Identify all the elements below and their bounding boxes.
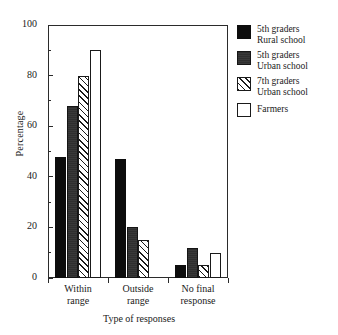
legend-label-line: 5th graders — [257, 50, 308, 61]
bar — [198, 265, 209, 278]
legend-item: Farmers — [237, 102, 338, 117]
bar — [115, 159, 126, 278]
y-tick-label: 20 — [9, 221, 37, 231]
legend-label-line: Rural school — [257, 35, 305, 46]
legend-label: 5th gradersUrban school — [257, 50, 308, 71]
x-category-label: No finalresponse — [160, 283, 236, 306]
legend-label-line: Farmers — [257, 104, 288, 115]
x-axis-title: Type of responses — [0, 313, 278, 324]
bar — [90, 50, 101, 278]
x-category-line: No final — [160, 283, 236, 295]
bar — [187, 248, 198, 278]
bar — [175, 265, 186, 278]
legend-item: 5th gradersRural school — [237, 24, 338, 45]
y-tick-label: 100 — [9, 19, 37, 29]
bar — [127, 227, 138, 278]
bar — [67, 106, 78, 278]
y-tick-label: 0 — [9, 272, 37, 282]
bar — [55, 157, 66, 278]
plot-area — [48, 25, 228, 278]
legend-swatch-solid-black — [237, 25, 251, 39]
legend-label-line: 7th graders — [257, 76, 308, 87]
y-tick-label: 40 — [9, 171, 37, 181]
x-category-line: response — [160, 295, 236, 307]
legend-label-line: Urban school — [257, 87, 308, 98]
chart-legend: 5th gradersRural school5th gradersUrban … — [237, 24, 338, 122]
legend-label-line: Urban school — [257, 61, 308, 72]
legend-label: 7th gradersUrban school — [257, 76, 308, 97]
bar — [210, 253, 221, 278]
legend-label: Farmers — [257, 102, 288, 115]
legend-item: 7th gradersUrban school — [237, 76, 338, 97]
legend-item: 5th gradersUrban school — [237, 50, 338, 71]
y-tick-label: 80 — [9, 70, 37, 80]
legend-label-line: 5th graders — [257, 24, 305, 35]
legend-swatch-diagonal-hatch — [237, 77, 251, 91]
bar — [78, 76, 89, 278]
legend-swatch-dark-fill — [237, 51, 251, 65]
bar — [138, 240, 149, 278]
legend-swatch-white-open — [237, 103, 251, 117]
legend-label: 5th gradersRural school — [257, 24, 305, 45]
bar-chart-figure: Percentage 020406080100 WithinrangeOutsi… — [0, 0, 338, 335]
y-tick-label: 60 — [9, 120, 37, 130]
y-axis-title: Percentage — [14, 89, 25, 179]
